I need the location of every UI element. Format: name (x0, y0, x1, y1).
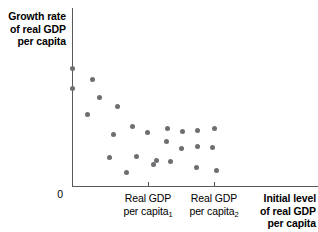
scatter-point (70, 86, 75, 91)
scatter-point (130, 124, 135, 129)
scatter-point (195, 128, 200, 133)
scatter-point (85, 112, 90, 117)
scatter-point (124, 170, 129, 175)
scatter-point (168, 159, 173, 164)
scatter-point (179, 146, 184, 151)
scatter-point (111, 132, 116, 137)
scatter-chart-figure: Growth rate of real GDP per capita 0 Rea… (0, 0, 318, 232)
scatter-point (154, 158, 159, 163)
scatter-point (194, 165, 199, 170)
scatter-point (145, 130, 150, 135)
scatter-point (195, 144, 200, 149)
scatter-point (210, 145, 215, 150)
scatter-point (212, 126, 217, 131)
scatter-point (107, 155, 112, 160)
scatter-point (214, 168, 219, 173)
scatter-point (180, 129, 185, 134)
scatter-point (164, 139, 169, 144)
scatter-point (97, 95, 102, 100)
scatter-point (165, 126, 170, 131)
scatter-point (134, 154, 139, 159)
scatter-point (90, 77, 95, 82)
plot-area (0, 0, 318, 232)
scatter-point (115, 104, 120, 109)
scatter-point (70, 66, 75, 71)
